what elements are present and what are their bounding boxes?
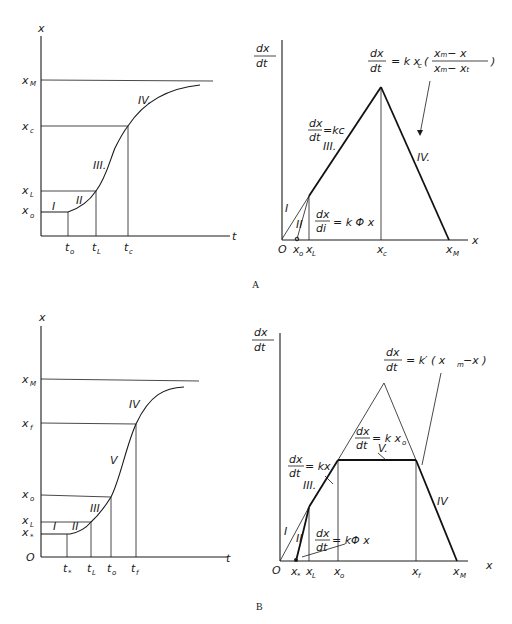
eq-den: dt — [309, 131, 321, 144]
x-tick-sub: L — [312, 572, 316, 580]
eq-den: dt — [356, 439, 368, 452]
eq-rhs: = k Φ x — [333, 216, 375, 229]
y-tick-sub: L — [30, 521, 34, 529]
panel-caption-a: A — [252, 279, 260, 290]
x-star-marker — [294, 558, 298, 562]
eq-frac-num: xₘ− x — [433, 47, 467, 60]
y-tick-base: x — [21, 526, 29, 539]
y-tick-sub: c — [30, 127, 34, 135]
annotation-arrow — [420, 81, 430, 134]
phase4-line — [381, 87, 449, 240]
equation-phase2: dx di = k Φ x — [315, 208, 375, 235]
arrow-head-icon — [417, 130, 423, 136]
phase-label: IV — [129, 398, 141, 411]
eq-paren: ) — [490, 55, 495, 68]
y-tick-base: x — [21, 417, 29, 430]
xm-asymptote — [41, 80, 213, 81]
y-tick-sub: f — [30, 424, 34, 432]
eq-rhs: =kc — [323, 124, 345, 137]
phase-label: III. — [323, 140, 336, 153]
eq-num: dx — [309, 117, 323, 130]
eq-frac-den: xₘ− xₜ — [433, 62, 470, 75]
eq-rhs-sub: c — [418, 62, 422, 70]
phase4-line — [416, 460, 457, 561]
y-tick-base: x — [21, 204, 29, 217]
x-tick-sub: o — [299, 250, 303, 258]
y-tick-base: x — [21, 373, 29, 386]
x-axis-label: t — [232, 230, 237, 243]
x-tick-base: x — [445, 243, 453, 256]
y-tick-sub: M — [30, 380, 36, 388]
eq-den: dt — [386, 361, 398, 374]
x-axis-label: t — [226, 552, 231, 565]
y-axis-den: dt — [254, 341, 266, 354]
x-axis-label: x — [471, 234, 479, 247]
eq-num: dx — [316, 527, 330, 540]
phase-label: II — [72, 520, 79, 533]
x-axis-label: x — [485, 559, 493, 572]
xo-guide — [41, 495, 111, 497]
x-tick-sub: M — [453, 250, 459, 258]
phase-label: IV — [437, 495, 449, 508]
panel-a-rate-plot: dx dt x O x o x L x c x M I II III. IV. … — [254, 40, 495, 258]
phase-label: II — [296, 218, 303, 231]
eq-rhs-tail: −x ) — [463, 354, 487, 367]
x-tick-sub: M — [460, 572, 466, 580]
x-tick-sub: f — [418, 572, 422, 580]
y-axis-num: dx — [256, 42, 270, 55]
eq-den: di — [316, 222, 326, 235]
panel-b-growth-curve: x t O x M x f x o x L x * t * t L t o t … — [21, 311, 231, 577]
eq-rhs-sub: o — [402, 439, 406, 447]
phase-label: I — [53, 520, 56, 533]
growth-kinetics-figure: x t x M x c x L x o t o t L t c I II III… — [0, 0, 512, 624]
panel-a-growth-curve: x t x M x c x L x o t o t L t c I II III… — [21, 22, 237, 256]
eq-num: dx — [356, 425, 370, 438]
phase-label: I — [52, 200, 55, 213]
growth-curve — [41, 85, 200, 212]
x-tick-sub: L — [97, 248, 101, 256]
annotation-pointer — [422, 373, 441, 465]
phase-label: I — [285, 202, 288, 215]
y-tick-sub: * — [30, 533, 34, 541]
phase-label: II — [76, 194, 83, 207]
y-tick-sub: o — [30, 212, 34, 220]
phase-label: V — [110, 454, 119, 467]
x-tick-sub: c — [383, 250, 387, 258]
x-tick-sub: * — [297, 572, 301, 580]
phase-label: III. — [93, 159, 106, 172]
equation-phase4: dx dt = k′ ( x m −x ) — [384, 346, 487, 374]
eq-den: dt — [316, 541, 328, 554]
phase-label: II — [296, 532, 303, 545]
eq-num: dx — [386, 346, 400, 359]
phase-label: I — [284, 525, 287, 538]
y-axis-num: dx — [254, 326, 268, 339]
y-tick-base: x — [21, 488, 29, 501]
y-tick-base: x — [21, 120, 29, 133]
y-axis-label: x — [37, 22, 45, 35]
y-tick-base: x — [21, 184, 29, 197]
x-tick-sub: f — [136, 569, 140, 577]
eq-rhs: = kx — [305, 460, 331, 473]
eq-num: dx — [370, 47, 384, 60]
equation-phase2: dx dt = kΦ x — [315, 527, 370, 554]
x-tick-sub: c — [129, 248, 133, 256]
y-tick-sub: o — [30, 495, 34, 503]
eq-rhs: = kΦ x — [332, 534, 370, 547]
panel-caption-b: B — [256, 601, 263, 612]
x-tick-sub: o — [340, 572, 344, 580]
x-tick-sub: * — [68, 569, 72, 577]
phase-label: IV. — [138, 94, 151, 107]
xf-guide — [41, 423, 136, 424]
phase-label: III. — [303, 479, 316, 492]
x-tick-sub: L — [92, 569, 96, 577]
y-axis-den: dt — [256, 57, 268, 70]
panel-b-rate-plot: dx dt x O x * x L x o x f x M I II III. … — [252, 326, 493, 580]
xm-asymptote — [41, 379, 199, 381]
x-tick-sub: o — [112, 569, 116, 577]
y-tick-base: x — [21, 74, 29, 87]
eq-den: dt — [289, 467, 301, 480]
origin-label: O — [278, 243, 287, 256]
eq-rhs: = k x — [391, 55, 421, 68]
origin-label: O — [26, 551, 35, 564]
eq-rhs: = k x — [372, 432, 402, 445]
